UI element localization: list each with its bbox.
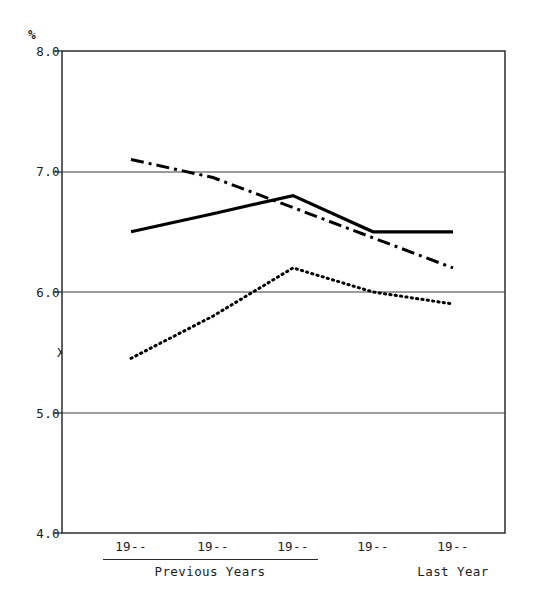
chart-container: % 8.0 7.0 6.0 5.0 4.0 B Corp. A Corp. XY…: [0, 0, 555, 606]
y-axis-ticks: [54, 51, 62, 533]
plot-svg: [0, 0, 555, 606]
